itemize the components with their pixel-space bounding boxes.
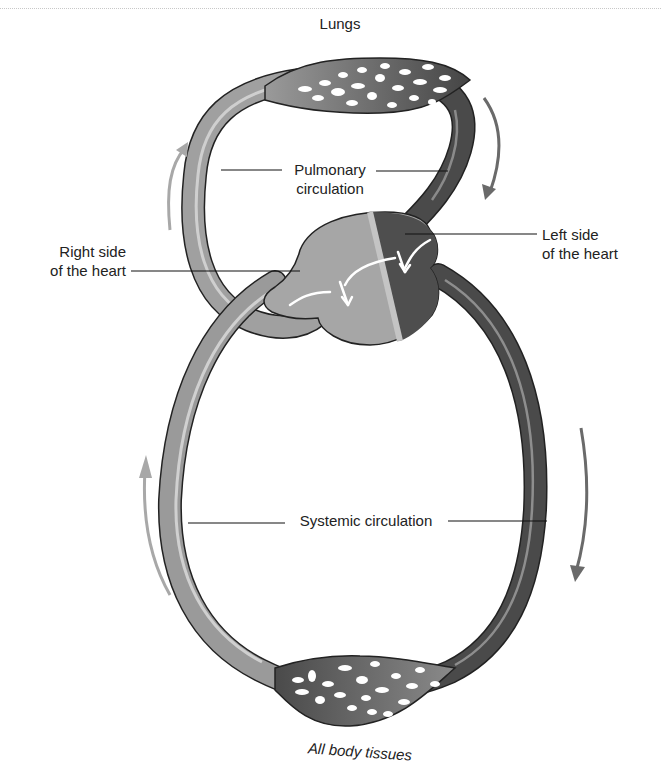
systemic-vessel-venous xyxy=(170,282,330,690)
left-heart-label-line1: Left side xyxy=(542,225,652,244)
right-heart-label: Right side of the heart xyxy=(20,242,126,280)
pulmonary-circulation-label: Pulmonary circulation xyxy=(280,160,380,198)
tissue-capillary-bed xyxy=(275,656,455,726)
lungs-capillary-bed xyxy=(265,58,470,113)
circulation-diagram xyxy=(0,0,661,783)
arrow-pulmonary-down-icon xyxy=(482,98,499,200)
pulmonary-label-line1: Pulmonary xyxy=(280,160,380,179)
pulmonary-label-line2: circulation xyxy=(280,179,380,198)
systemic-circulation-label: Systemic circulation xyxy=(285,511,447,530)
arrow-systemic-down-icon xyxy=(570,428,587,582)
left-heart-label-line2: of the heart xyxy=(542,244,652,263)
right-heart-label-line2: of the heart xyxy=(20,261,126,280)
left-heart-label: Left side of the heart xyxy=(542,225,652,263)
lungs-label: Lungs xyxy=(300,14,380,33)
right-heart-label-line1: Right side xyxy=(20,242,126,261)
